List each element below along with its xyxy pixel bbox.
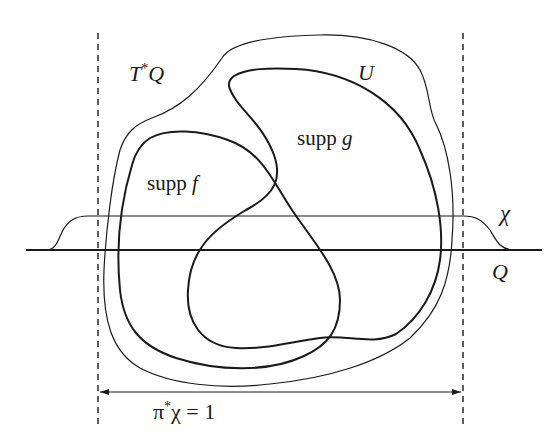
label-supp-g-text: supp bbox=[297, 126, 342, 150]
cutoff-function-chi bbox=[46, 216, 514, 250]
support-diagram: T*Q U supp g supp f χ Q π*χ = 1 bbox=[0, 0, 559, 446]
label-supp-f-var: f bbox=[192, 171, 198, 195]
label-T: T bbox=[129, 61, 141, 86]
label-supp-f-text: supp bbox=[147, 171, 192, 195]
label-Q: Q bbox=[148, 61, 164, 86]
label-supp-g: supp g bbox=[297, 128, 352, 149]
label-supp-g-var: g bbox=[342, 126, 353, 150]
region-U bbox=[104, 35, 453, 386]
region-supp-g bbox=[188, 69, 441, 349]
label-open-set-U: U bbox=[358, 62, 374, 84]
label-supp-f: supp f bbox=[147, 173, 198, 194]
diagram-canvas bbox=[0, 0, 559, 446]
label-pi: π bbox=[153, 399, 164, 424]
label-cotangent-bundle: T*Q bbox=[129, 62, 164, 85]
label-pullback-equation: π*χ = 1 bbox=[153, 400, 215, 423]
label-base-manifold-Q: Q bbox=[492, 261, 508, 283]
label-chi-equals-one: χ = 1 bbox=[171, 399, 215, 424]
label-chi: χ bbox=[500, 202, 510, 225]
